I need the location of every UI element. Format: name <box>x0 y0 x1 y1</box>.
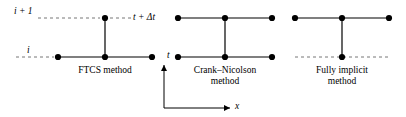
method-label-fully-implicit: Fully implicit method <box>282 65 402 87</box>
fi-node-top-right <box>386 15 392 21</box>
level-label-i: i <box>27 46 30 56</box>
method-label-crank-nicolson-line2: method <box>165 76 285 87</box>
dashed-level-lines <box>16 18 389 57</box>
fi-node-top-left <box>292 15 298 21</box>
ftcs-node-bottom-center <box>102 54 108 60</box>
method-label-crank-nicolson-line1: Crank–Nicolson <box>165 65 285 76</box>
method-label-ftcs-line1: FTCS method <box>45 65 165 76</box>
stencil-fully-implicit <box>292 15 392 60</box>
ftcs-node-bottom-left <box>55 54 61 60</box>
time-marker-t-plus-delta-t: t + Δt <box>132 13 156 23</box>
cn-node-bottom-left <box>175 54 181 60</box>
cn-node-top-center <box>222 15 228 21</box>
x-axis-label: x <box>235 102 239 112</box>
fi-node-bottom-center <box>339 54 345 60</box>
cn-node-top-right <box>269 15 275 21</box>
cn-node-bottom-center <box>222 54 228 60</box>
method-label-fully-implicit-line2: method <box>282 76 402 87</box>
ftcs-node-bottom-right <box>149 54 155 60</box>
method-label-fully-implicit-line1: Fully implicit <box>282 65 402 76</box>
stencil-diagram-svg <box>0 0 406 117</box>
fi-node-top-center <box>339 15 345 21</box>
stencil-figure: i + 1 i t + Δt t x FTCS method Crank–Nic… <box>0 0 406 117</box>
ftcs-node-top <box>102 15 108 21</box>
cn-node-top-left <box>175 15 181 21</box>
time-marker-t: t <box>166 51 171 61</box>
stencil-crank-nicolson <box>175 15 275 60</box>
method-label-crank-nicolson: Crank–Nicolson method <box>165 65 285 87</box>
level-label-i-plus-1: i + 1 <box>14 7 33 17</box>
cn-node-bottom-right <box>269 54 275 60</box>
method-label-ftcs: FTCS method <box>45 65 165 76</box>
